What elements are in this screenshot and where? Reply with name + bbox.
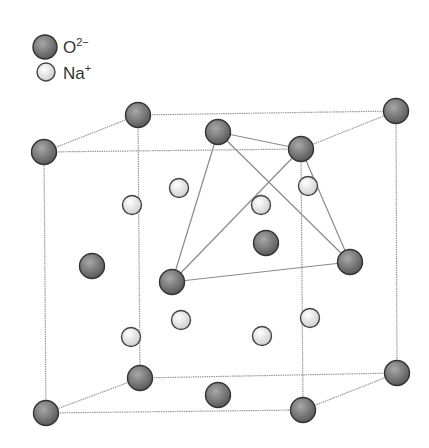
- cell-edge: [44, 149, 301, 152]
- oxide-ion: [206, 383, 231, 408]
- oxide-ion: [34, 401, 59, 426]
- tetrahedron-edge: [172, 262, 350, 282]
- sodium-ion: [253, 327, 272, 346]
- legend-oxide-icon: [33, 35, 57, 59]
- cell-edge: [396, 111, 397, 373]
- oxide-ion: [385, 361, 410, 386]
- tetrahedron-edge: [172, 149, 301, 282]
- sodium-ion: [252, 196, 271, 215]
- tetrahedron-edge: [218, 132, 350, 262]
- legend: [33, 35, 57, 81]
- cell-edge: [301, 111, 396, 149]
- oxide-ion: [291, 398, 316, 423]
- cell-edge: [46, 378, 140, 413]
- sodium-ion: [122, 328, 141, 347]
- oxide-ion: [160, 270, 185, 295]
- cell-edge: [46, 410, 303, 413]
- sodium-charge: +: [85, 62, 91, 74]
- oxide-charge: 2−: [76, 36, 89, 48]
- tetrahedron-edge: [301, 149, 350, 262]
- oxide-ion: [80, 254, 105, 279]
- cell-edge: [44, 152, 46, 413]
- sodium-symbol: Na: [63, 64, 85, 83]
- oxide-ion: [289, 137, 314, 162]
- legend-label-sodium: Na+: [63, 62, 91, 84]
- tetrahedron-edge: [172, 132, 218, 282]
- sodium-ion: [172, 311, 191, 330]
- cell-edge: [140, 373, 397, 378]
- oxide-ion: [254, 231, 279, 256]
- oxide-ion: [338, 250, 363, 275]
- oxide-ion: [206, 120, 231, 145]
- legend-sodium-icon: [37, 63, 55, 81]
- oxide-ion: [126, 103, 151, 128]
- cell-edge: [44, 115, 138, 152]
- legend-label-oxide: O2−: [63, 36, 89, 58]
- sodium-ion: [299, 177, 318, 196]
- sodium-ion: [301, 309, 320, 328]
- oxide-ion: [384, 99, 409, 124]
- oxide-symbol: O: [63, 38, 76, 57]
- oxide-ion: [128, 366, 153, 391]
- oxide-ion: [32, 140, 57, 165]
- cell-edge: [303, 373, 397, 410]
- sodium-ion: [170, 179, 189, 198]
- sodium-ion: [123, 196, 142, 215]
- cell-edge: [138, 111, 396, 115]
